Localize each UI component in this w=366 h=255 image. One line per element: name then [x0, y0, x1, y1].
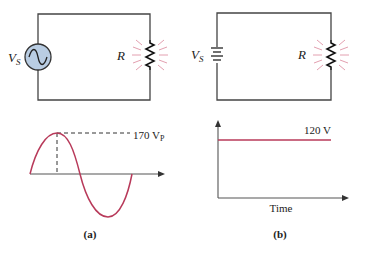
battery-icon [211, 48, 223, 60]
arrow-right-icon [158, 171, 165, 177]
source-label-b: VS [191, 47, 204, 64]
dc-level-label: 120 V [304, 124, 331, 136]
resistor-label-a: R [116, 48, 125, 63]
ac-waveform: 170 VP [30, 129, 165, 217]
resistor-icon [146, 40, 154, 70]
ac-source-icon [25, 44, 51, 70]
resistor-icon [327, 40, 335, 70]
time-axis-label: Time [270, 202, 293, 214]
resistor-label-b: R [297, 47, 306, 62]
source-label-a: VS [8, 50, 21, 67]
peak-voltage-label: 170 VP [133, 129, 165, 143]
circuit-b: VS R [191, 13, 349, 100]
diagram-canvas: VS R VS [0, 0, 366, 255]
dc-waveform: 120 V Time [215, 120, 349, 214]
arrow-up-icon [215, 120, 221, 127]
caption-b: (b) [273, 228, 287, 241]
caption-a: (a) [84, 228, 97, 241]
arrow-right-icon [342, 195, 349, 201]
circuit-a: VS R [8, 14, 168, 100]
